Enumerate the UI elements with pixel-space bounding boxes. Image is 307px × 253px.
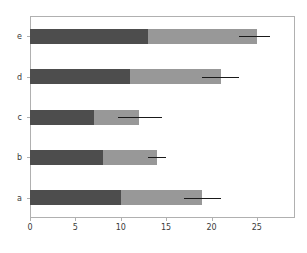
plot-area: 0510152025 abcde — [30, 16, 295, 218]
y-tick-label-b: b — [17, 153, 22, 162]
y-tick-e — [27, 36, 30, 37]
x-tick-10 — [121, 218, 122, 221]
bar-b — [30, 150, 157, 165]
x-tick-label-10: 10 — [116, 223, 126, 232]
x-tick-15 — [166, 218, 167, 221]
error-bar-d — [202, 77, 238, 78]
bar-e — [30, 29, 257, 44]
y-tick-c — [27, 117, 30, 118]
x-tick-label-15: 15 — [161, 223, 171, 232]
y-tick-label-d: d — [17, 73, 22, 82]
bar-segment-base-a — [30, 190, 121, 205]
y-tick-b — [27, 157, 30, 158]
y-tick-label-e: e — [17, 32, 22, 41]
bar-segment-base-d — [30, 69, 130, 84]
y-tick-d — [27, 77, 30, 78]
x-tick-label-25: 25 — [252, 223, 262, 232]
axis-spine-top — [30, 16, 295, 17]
error-bar-e — [239, 36, 271, 37]
y-tick-label-a: a — [17, 194, 22, 203]
chart-figure: 0510152025 abcde — [0, 0, 307, 253]
bar-a — [30, 190, 202, 205]
x-tick-label-0: 0 — [27, 223, 32, 232]
bar-d — [30, 69, 221, 84]
axis-spine-right — [294, 16, 295, 218]
y-tick-a — [27, 198, 30, 199]
x-tick-label-5: 5 — [73, 223, 78, 232]
y-tick-label-c: c — [18, 113, 22, 122]
x-tick-label-20: 20 — [206, 223, 216, 232]
x-tick-25 — [257, 218, 258, 221]
x-tick-20 — [212, 218, 213, 221]
error-bar-b — [148, 157, 166, 158]
x-tick-0 — [30, 218, 31, 221]
x-tick-5 — [75, 218, 76, 221]
bar-segment-base-e — [30, 29, 148, 44]
axis-spine-bottom — [30, 217, 295, 218]
error-bar-a — [184, 198, 220, 199]
bar-segment-base-b — [30, 150, 103, 165]
bar-segment-base-c — [30, 110, 94, 125]
error-bar-c — [118, 117, 162, 118]
